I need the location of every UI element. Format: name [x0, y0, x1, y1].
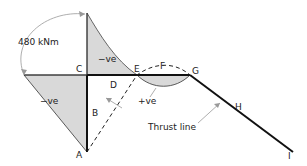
point-E-label: E [134, 64, 140, 74]
arrowhead-B [106, 98, 112, 103]
positive-moment-region [137, 75, 190, 86]
moment-value-label: 480 kNm [18, 37, 59, 47]
rafter-GI [190, 75, 293, 152]
point-I-label: I [288, 151, 291, 161]
point-F-label: F [160, 61, 165, 71]
frame-diagram: 480 kNm −ve −ve +ve C D E F G B A H I Th… [0, 0, 307, 166]
upper-neg-label: −ve [98, 54, 117, 64]
arrowhead-bottom [21, 69, 27, 75]
pos-label: +ve [138, 96, 157, 106]
point-D-label: D [110, 80, 117, 90]
arrowhead-top [79, 11, 85, 17]
thrust-line-label: Thrust line [147, 122, 196, 132]
point-A-label: A [76, 150, 83, 160]
upper-negative-moment-region [87, 13, 137, 75]
point-H-label: H [235, 102, 242, 112]
point-G-label: G [192, 66, 199, 76]
point-B-label: B [92, 108, 98, 118]
point-C-label: C [76, 64, 82, 74]
left-negative-moment-region [24, 75, 87, 152]
left-neg-label: −ve [40, 96, 59, 106]
